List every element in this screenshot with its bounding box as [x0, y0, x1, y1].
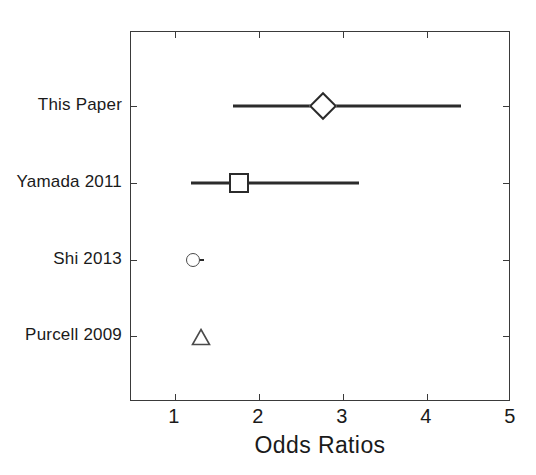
marker-diamond-this-paper: [309, 92, 337, 120]
xtick-label-5: 5: [504, 405, 515, 428]
xtick-mark-top-3: [343, 32, 344, 38]
ytick-mark-yamada-2011: [131, 183, 137, 184]
ci-line-yamada-2011: [191, 182, 359, 185]
xtick-label-1: 1: [168, 405, 179, 428]
xtick-mark-top-4: [427, 32, 428, 38]
ytick-mark-right-purcell-2009: [503, 336, 509, 337]
ytick-label-shi-2013: Shi 2013: [0, 249, 122, 269]
xtick-mark-2: [259, 394, 260, 400]
xtick-label-3: 3: [336, 405, 347, 428]
ytick-mark-this-paper: [131, 106, 137, 107]
xtick-mark-3: [343, 394, 344, 400]
ytick-mark-shi-2013: [131, 260, 137, 261]
marker-square-yamada-2011: [229, 173, 249, 193]
ci-line-this-paper: [233, 105, 461, 108]
marker-circle-shi-2013: [186, 253, 200, 267]
forest-plot-figure: This Paper Yamada 2011 Shi 2013 Purcell …: [0, 0, 536, 475]
ytick-mark-right-yamada-2011: [503, 183, 509, 184]
x-axis-title: Odds Ratios: [130, 432, 510, 459]
ytick-mark-right-this-paper: [503, 106, 509, 107]
plot-area: [130, 31, 510, 401]
xtick-mark-top-2: [259, 32, 260, 38]
xtick-label-4: 4: [420, 405, 431, 428]
xtick-mark-1: [175, 394, 176, 400]
xtick-mark-4: [427, 394, 428, 400]
xtick-mark-top-1: [175, 32, 176, 38]
ytick-label-yamada-2011: Yamada 2011: [0, 172, 122, 192]
xtick-label-2: 2: [252, 405, 263, 428]
ytick-label-this-paper: This Paper: [0, 95, 122, 115]
ytick-mark-right-shi-2013: [503, 260, 509, 261]
ytick-mark-purcell-2009: [131, 336, 137, 337]
ytick-label-purcell-2009: Purcell 2009: [0, 325, 122, 345]
